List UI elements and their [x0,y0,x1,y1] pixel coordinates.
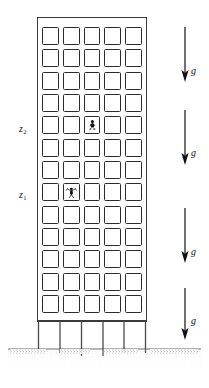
elevation-label-z2: z2 [19,124,26,134]
building-window [63,250,80,268]
building-window [42,49,59,67]
building-window [42,161,59,179]
building-window [63,27,80,45]
building-window [104,161,121,179]
building-window [84,183,101,201]
building-window [84,94,101,112]
building-window [84,161,101,179]
building-window [125,273,142,291]
building-window [104,250,121,268]
building-window [104,49,121,67]
building-window [104,94,121,112]
building-window [125,228,142,246]
building-window [84,206,101,224]
window-grid [42,27,142,313]
building-window [125,72,142,90]
building-window [125,139,142,157]
building-window [42,273,59,291]
building-window [125,295,142,313]
building-window [104,183,121,201]
building-window [42,228,59,246]
gravity-arrow-4 [178,288,200,340]
building-window [104,206,121,224]
building-window [104,27,121,45]
building-window [42,206,59,224]
building-window [125,250,142,268]
building-window [84,49,101,67]
building-window [42,250,59,268]
gravity-arrow-2 [178,110,200,165]
building-window [84,273,101,291]
building-window [104,273,121,291]
building-window [84,250,101,268]
building-window [104,116,121,134]
building-window [125,94,142,112]
gravity-arrow-1 [178,27,200,82]
building-window [84,72,101,90]
building-window [42,72,59,90]
building-window [63,139,80,157]
building-window [125,49,142,67]
upper-occupant-icon [85,117,100,133]
gravity-label-4: g [191,316,196,326]
gravity-label-2: g [191,148,196,158]
gravity-arrow-3 [178,208,200,263]
building-gravity-diagram: z2 z1 g g g g [0,0,209,388]
building-window [63,206,80,224]
building-window [42,183,59,201]
elevation-label-z1: z1 [19,190,26,200]
building-window [42,295,59,313]
soil-ground [8,348,201,381]
building-window [63,161,80,179]
building-window [42,116,59,134]
building-window [125,206,142,224]
building-window [84,228,101,246]
building-window [42,27,59,45]
elevation-subscript-z1: 1 [23,194,26,201]
building-window [125,116,142,134]
building-window [125,183,142,201]
lower-occupant-icon [64,184,79,200]
building-window [104,295,121,313]
building-window [42,94,59,112]
building-window [63,273,80,291]
building-window [84,27,101,45]
building-window [63,183,80,201]
building-window [63,49,80,67]
building-window [63,116,80,134]
elevation-subscript-z2: 2 [23,128,26,135]
building-window [84,139,101,157]
building-window [104,228,121,246]
building-window [104,139,121,157]
building-window [84,116,101,134]
gravity-label-1: g [191,66,196,76]
building-window [63,295,80,313]
building-window [104,72,121,90]
gravity-label-3: g [191,247,196,257]
building-window [63,228,80,246]
building-window [84,295,101,313]
building-window [125,27,142,45]
building-window [63,94,80,112]
building-window [125,161,142,179]
building-window [42,139,59,157]
building-window [63,72,80,90]
